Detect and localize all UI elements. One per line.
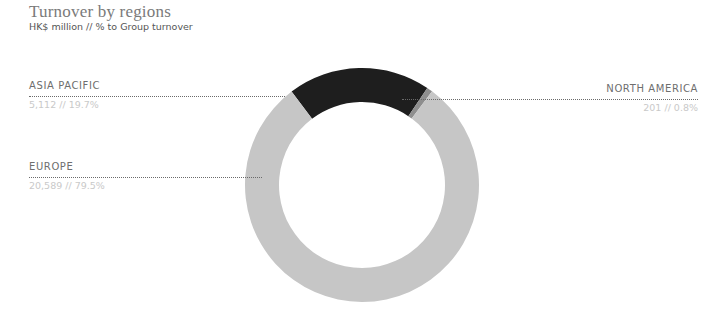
- value-europe: 20,589 // 79.5%: [29, 180, 105, 191]
- value-north-america: 201 // 0.8%: [643, 102, 698, 113]
- value-asia-pacific: 5,112 // 19.7%: [29, 99, 99, 110]
- leader-line-europe: [29, 177, 262, 178]
- label-europe: EUROPE: [29, 161, 73, 172]
- leader-line-north-america: [402, 99, 698, 100]
- leader-line-asia-pacific: [29, 96, 285, 97]
- donut-chart: [0, 0, 717, 320]
- label-north-america: NORTH AMERICA: [606, 83, 698, 94]
- donut-slice-asia-pacific: [292, 68, 428, 119]
- donut-slice-europe: [245, 91, 479, 302]
- label-asia-pacific: ASIA PACIFIC: [29, 80, 100, 91]
